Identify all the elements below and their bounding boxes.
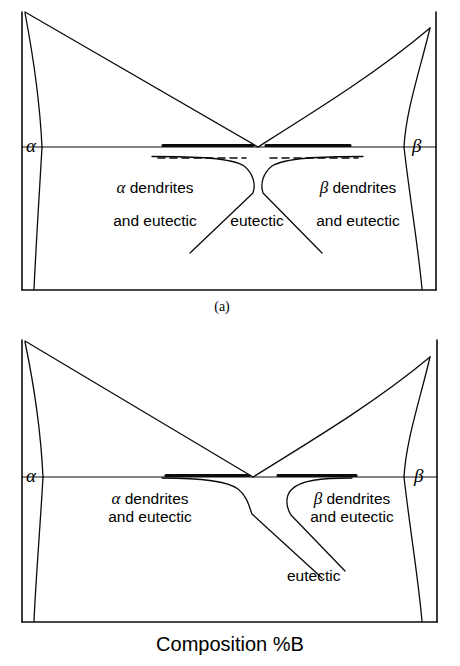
panel-a-beta-region-word: dendrites: [328, 179, 396, 196]
panel-b-beta-solvus: [404, 477, 422, 621]
composition-axis-title: Composition %B: [156, 634, 304, 655]
panel-a-caption: (a): [214, 300, 230, 315]
panel-b-alpha-region-greek: α: [111, 489, 120, 508]
panel-b-beta-phase-label: β: [414, 466, 423, 486]
panel-a-lines: [22, 12, 436, 290]
panel-a-alpha-region-line2: and eutectic: [113, 213, 197, 229]
panel-a-beta-solvus: [404, 147, 422, 289]
panel-a-alpha-solvus: [34, 147, 42, 289]
panel-b-beta-region-line2: and eutectic: [310, 509, 394, 525]
panel-a-left-liquidus: [25, 12, 258, 147]
panel-b-eutectic-region-label: eutectic: [287, 568, 340, 584]
panel-b-beta-region-word: dendrites: [322, 490, 390, 507]
panel-a-alpha-dendrite-boundary: [152, 157, 254, 254]
panel-a-beta-phase-label: β: [412, 136, 421, 156]
panel-a-beta-region-line1: β dendrites: [320, 179, 397, 197]
panel-a-beta-dendrite-boundary: [262, 157, 363, 254]
panel-a-alpha-region-greek: α: [116, 178, 125, 197]
panel-a-eutectic-region-label: eutectic: [230, 213, 283, 229]
panel-a-alpha-solidus: [25, 13, 42, 147]
panel-b-alpha-phase-label: α: [26, 466, 36, 486]
panel-b-right-liquidus: [253, 357, 430, 477]
panel-b-alpha-region-line2: and eutectic: [108, 509, 192, 525]
panel-b-beta-region-line1: β dendrites: [314, 490, 391, 508]
panel-a-beta-region-line2: and eutectic: [316, 213, 400, 229]
panel-a-alpha-region-line1: α dendrites: [116, 179, 193, 197]
panel-b-alpha-solvus: [34, 477, 43, 621]
panel-b-left-liquidus: [25, 341, 253, 477]
panel-b-alpha-solidus: [25, 342, 43, 477]
panel-b-lines: [22, 340, 437, 622]
phase-diagram-svg: [0, 0, 460, 666]
panel-a-alpha-region-word: dendrites: [125, 179, 193, 196]
panel-b-alpha-region-line1: α dendrites: [111, 490, 188, 508]
panel-b-alpha-region-word: dendrites: [120, 490, 188, 507]
eutectic-diagram-figure: α β α dendrites and eutectic eutectic β …: [0, 0, 460, 666]
panel-a-right-liquidus: [258, 28, 430, 147]
panel-a-alpha-phase-label: α: [26, 136, 36, 156]
